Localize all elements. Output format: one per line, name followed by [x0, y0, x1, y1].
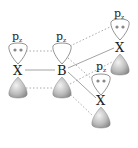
atom-symbol: X	[96, 93, 106, 108]
lone-pair-dot	[121, 25, 124, 28]
lower-lobe	[53, 77, 71, 98]
lone-pair-dot	[102, 79, 105, 82]
atom-symbol: X	[13, 63, 23, 78]
atom-x-bottom-right: pz X	[92, 60, 110, 128]
atom-b-center: pz B	[53, 30, 71, 98]
atom-x-left: pz X	[9, 30, 27, 98]
lone-pair-dot	[96, 79, 99, 82]
orbital-label: pz	[12, 30, 22, 43]
upper-lobe	[9, 43, 27, 64]
lower-lobe	[111, 54, 129, 75]
atom-symbol: B	[57, 63, 67, 78]
pi-overlap-lower-bottomright	[68, 92, 93, 116]
atom-x-top-right: pz X	[111, 7, 129, 75]
upper-lobe	[92, 74, 110, 95]
pi-overlap-upper-bottomright	[68, 58, 93, 80]
lone-pair-dot	[19, 48, 22, 51]
lone-pair-dot	[115, 25, 118, 28]
bx3-pi-bonding-diagram: pz X pz B pz X pz X	[0, 0, 138, 148]
orbital-label: pz	[96, 60, 106, 73]
pi-overlap-upper-topright	[70, 26, 112, 46]
bond-b-x-bottomright	[68, 72, 96, 98]
upper-lobe-empty	[53, 43, 71, 64]
orbital-label: pz	[114, 7, 124, 20]
orbital-label: pz	[56, 30, 66, 43]
lower-lobe	[92, 107, 110, 128]
bond-b-x-topright	[68, 48, 114, 68]
upper-lobe	[111, 19, 129, 40]
lone-pair-dot	[13, 48, 16, 51]
atom-symbol: X	[115, 40, 125, 55]
lower-lobe	[9, 77, 27, 98]
